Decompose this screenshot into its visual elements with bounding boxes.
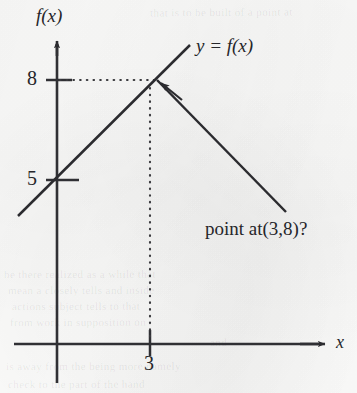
curve-equation-label: y = f(x) <box>196 36 253 55</box>
y-axis-label: f(x) <box>36 6 62 25</box>
function-graph-figure: that is to be built of a point atbe ther… <box>0 0 357 393</box>
y-tick-label-5: 5 <box>27 168 37 188</box>
annotation-pointer-arrow <box>161 83 182 100</box>
point-annotation-text: point at(3,8)? <box>205 219 307 238</box>
curve-ascending-branch <box>18 45 190 216</box>
x-tick-label-3: 3 <box>144 353 154 373</box>
plot-canvas <box>0 0 357 393</box>
x-axis-label: x <box>336 333 344 351</box>
y-tick-label-8: 8 <box>27 68 37 88</box>
tick-mark-group <box>46 80 150 356</box>
guide-line-group <box>60 80 154 342</box>
curve-descending-branch <box>157 80 286 212</box>
